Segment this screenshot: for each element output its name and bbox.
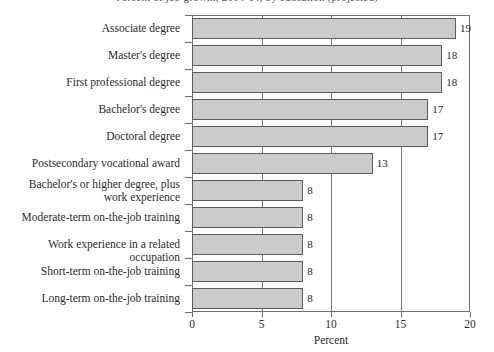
x-axis-label: Percent xyxy=(192,334,470,346)
bar xyxy=(192,234,303,255)
y-tick xyxy=(185,258,192,259)
bar-row: 8 xyxy=(192,204,470,231)
bar-value-label: 8 xyxy=(307,181,313,200)
x-tick xyxy=(331,312,332,317)
x-tick xyxy=(401,312,402,317)
y-tick xyxy=(185,15,192,16)
x-tick-label: 20 xyxy=(464,318,476,330)
bar xyxy=(192,18,456,39)
category-axis-labels: Associate degreeMaster's degreeFirst pro… xyxy=(0,15,186,312)
bar-value-label: 8 xyxy=(307,235,313,254)
category-label: Doctoral degree xyxy=(0,130,186,143)
category-label: Long-term on-the-job training xyxy=(0,292,186,305)
bar-row: 18 xyxy=(192,69,470,96)
bar xyxy=(192,99,428,120)
category-label: Work experience in a related occupation xyxy=(0,238,186,264)
category-label: Moderate-term on-the-job training xyxy=(0,211,186,224)
category-label: Bachelor's or higher degree, plus work e… xyxy=(0,178,186,204)
bar-value-label: 8 xyxy=(307,289,313,308)
category-label: Short-term on-the-job training xyxy=(0,265,186,278)
x-tick xyxy=(262,312,263,317)
bar-value-label: 18 xyxy=(446,73,457,92)
category-label: Postsecondary vocational award xyxy=(0,157,186,170)
bar-row: 13 xyxy=(192,150,470,177)
bar-series: 19181817171388888 xyxy=(192,15,470,312)
bar-value-label: 8 xyxy=(307,262,313,281)
bar-row: 17 xyxy=(192,123,470,150)
bar-row: 17 xyxy=(192,96,470,123)
x-tick-label: 0 xyxy=(189,318,195,330)
x-tick-label: 5 xyxy=(259,318,265,330)
y-tick xyxy=(185,123,192,124)
y-tick xyxy=(185,96,192,97)
x-tick xyxy=(192,312,193,317)
category-label: Bachelor's degree xyxy=(0,103,186,116)
y-tick xyxy=(185,42,192,43)
y-tick xyxy=(185,69,192,70)
y-tick xyxy=(185,312,192,313)
y-tick xyxy=(185,204,192,205)
category-label: Associate degree xyxy=(0,22,186,35)
bar xyxy=(192,207,303,228)
bar-value-label: 8 xyxy=(307,208,313,227)
category-label: Master's degree xyxy=(0,49,186,62)
bar-value-label: 17 xyxy=(432,127,443,146)
bar-row: 8 xyxy=(192,231,470,258)
category-label: First professional degree xyxy=(0,76,186,89)
x-tick-label: 15 xyxy=(395,318,407,330)
bar-row: 8 xyxy=(192,258,470,285)
bar-row: 19 xyxy=(192,15,470,42)
bar-row: 8 xyxy=(192,285,470,312)
bar-chart-figure: 19181817171388888 Associate degreeMaster… xyxy=(0,0,494,352)
bar xyxy=(192,261,303,282)
bar xyxy=(192,153,373,174)
bar xyxy=(192,288,303,309)
bar-row: 18 xyxy=(192,42,470,69)
x-tick xyxy=(470,312,471,317)
bar-value-label: 18 xyxy=(446,46,457,65)
y-tick xyxy=(185,231,192,232)
bar xyxy=(192,126,428,147)
y-tick xyxy=(185,285,192,286)
bar-row: 8 xyxy=(192,177,470,204)
y-tick xyxy=(185,177,192,178)
bar xyxy=(192,45,442,66)
y-tick xyxy=(185,150,192,151)
bar-value-label: 17 xyxy=(432,100,443,119)
x-tick-label: 10 xyxy=(325,318,337,330)
bar-value-label: 13 xyxy=(377,154,388,173)
bar xyxy=(192,180,303,201)
bar xyxy=(192,72,442,93)
bar-value-label: 19 xyxy=(460,19,471,38)
